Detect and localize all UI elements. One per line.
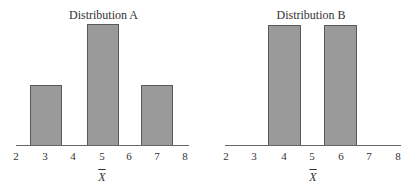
x-axis <box>225 145 401 146</box>
x-tick: 8 <box>391 150 405 162</box>
x-tick: 5 <box>95 150 109 162</box>
x-tick: 3 <box>38 150 52 162</box>
chart-title: Distribution B <box>207 8 415 23</box>
x-tick: 3 <box>247 150 261 162</box>
x-bar-symbol: X <box>98 170 105 184</box>
bar-x-3 <box>30 85 62 146</box>
x-axis-label: X <box>92 170 112 185</box>
chart-title: Distribution A <box>0 8 207 23</box>
x-bar-symbol: X <box>309 170 316 184</box>
x-tick: 4 <box>277 150 291 162</box>
chart-distribution-a: Distribution A 2 3 4 5 6 7 8 X <box>0 0 207 193</box>
bar-x-7 <box>141 85 173 146</box>
x-tick: 2 <box>219 150 233 162</box>
x-tick: 7 <box>362 150 376 162</box>
x-axis-label: X <box>303 170 323 185</box>
bar-x-6 <box>324 25 357 146</box>
bar-x-5 <box>87 24 119 146</box>
bar-x-4 <box>268 25 301 146</box>
x-tick: 7 <box>150 150 164 162</box>
x-axis <box>16 145 189 146</box>
x-tick: 5 <box>305 150 319 162</box>
x-tick: 2 <box>9 150 23 162</box>
x-tick: 6 <box>334 150 348 162</box>
x-tick: 8 <box>178 150 192 162</box>
x-tick: 4 <box>66 150 80 162</box>
chart-distribution-b: Distribution B 2 3 4 5 6 7 8 X <box>207 0 415 193</box>
x-tick: 6 <box>122 150 136 162</box>
